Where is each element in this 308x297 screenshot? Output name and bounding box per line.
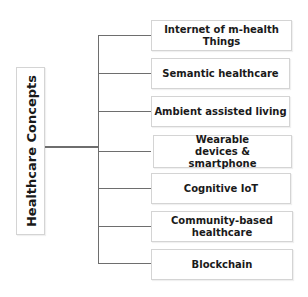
branch-connector xyxy=(98,263,151,264)
node-label: Community-based healthcare xyxy=(152,215,292,239)
node-label: Internet of m-health Things xyxy=(152,24,291,48)
root-connector xyxy=(45,146,98,148)
branch-connector xyxy=(98,226,151,227)
node-community-based-healthcare: Community-based healthcare xyxy=(151,211,293,242)
branch-connector xyxy=(98,111,151,112)
trunk-connector xyxy=(98,35,99,264)
node-label: Ambient assisted living xyxy=(154,106,286,118)
root-node: Healthcare Concepts xyxy=(16,67,45,235)
node-label: Blockchain xyxy=(192,259,253,271)
node-label: Wearable devices & smartphone xyxy=(176,134,269,170)
node-cognitive-iot: Cognitive IoT xyxy=(151,173,291,204)
node-label: Semantic healthcare xyxy=(162,68,278,80)
node-wearable-devices-smartphone: Wearable devices & smartphone xyxy=(153,135,292,168)
branch-connector xyxy=(98,151,151,152)
branch-connector xyxy=(98,188,151,189)
root-node-label: Healthcare Concepts xyxy=(23,75,38,227)
node-internet-of-m-health-things: Internet of m-health Things xyxy=(151,20,292,51)
node-ambient-assisted-living: Ambient assisted living xyxy=(151,96,290,127)
branch-connector xyxy=(98,73,151,74)
branch-connector xyxy=(98,35,151,36)
node-label: Cognitive IoT xyxy=(184,183,258,195)
node-semantic-healthcare: Semantic healthcare xyxy=(151,58,290,89)
node-blockchain: Blockchain xyxy=(151,249,293,280)
